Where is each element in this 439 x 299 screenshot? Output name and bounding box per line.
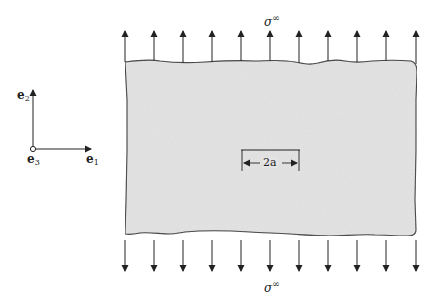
crack-length-label: 2a [262, 157, 278, 168]
top-load-arrows [125, 31, 416, 64]
bottom-load-arrows [125, 240, 416, 271]
e2-label: e2 [17, 89, 30, 103]
plate [125, 60, 417, 236]
coordinate-system [30, 90, 91, 152]
e3-label: e3 [27, 153, 40, 167]
cracked-plate-diagram [0, 0, 439, 299]
sigma-infinity-bottom-label: σ∞ [264, 280, 280, 294]
e1-label: e1 [86, 153, 99, 167]
plate-body [125, 60, 417, 236]
sigma-infinity-top-label: σ∞ [264, 14, 280, 28]
e3-out-of-plane-icon [30, 146, 35, 151]
